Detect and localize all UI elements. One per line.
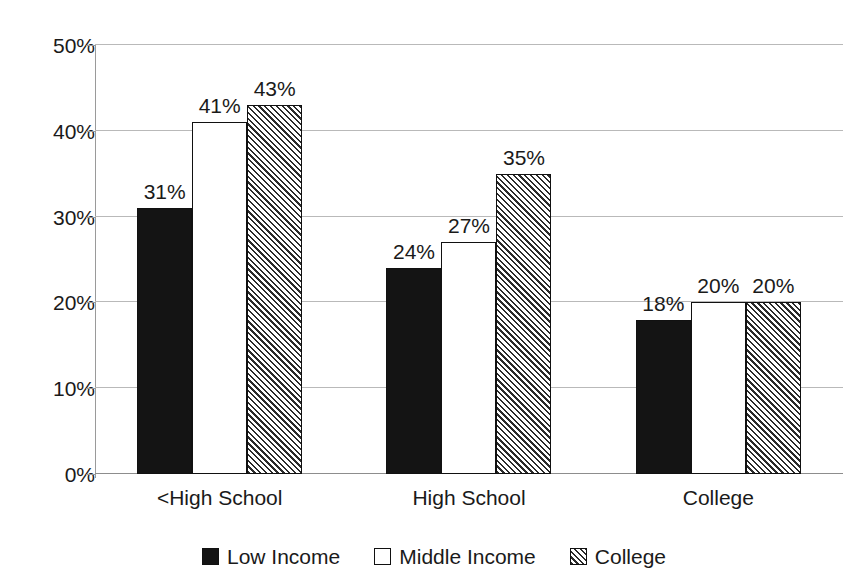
chart-legend: Low IncomeMiddle IncomeCollege [0, 546, 868, 567]
bar-group-1: 24%27%35% [344, 45, 593, 474]
y-tick-label-0%: 0% [17, 464, 95, 485]
y-axis: 0%10%20%30%40%50% [0, 45, 95, 474]
x-axis-label-2: College [683, 486, 754, 510]
bar-2-2 [746, 302, 801, 474]
bar-value-label-1-1: 27% [448, 215, 490, 236]
legend-label-2: College [595, 546, 666, 567]
bar-value-label-0-1: 41% [199, 95, 241, 116]
bar-1-1 [441, 242, 496, 474]
bar-value-label-2-1: 20% [697, 275, 739, 296]
y-tick-mark-40% [86, 131, 95, 132]
bar-value-label-2-2: 20% [752, 275, 794, 296]
bar-value-label-1-0: 24% [393, 241, 435, 262]
legend-swatch-low-income [202, 548, 219, 565]
y-tick-mark-10% [86, 388, 95, 389]
y-tick-mark-50% [86, 45, 95, 46]
x-axis-label-0: <High School [157, 486, 283, 510]
y-tick-label-40%: 40% [17, 120, 95, 141]
y-tick-mark-0% [86, 474, 95, 475]
bar-chart: 0%10%20%30%40%50% 31%41%43%24%27%35%18%2… [0, 0, 868, 584]
legend-item-1[interactable]: Middle Income [374, 546, 536, 567]
y-tick-mark-20% [86, 302, 95, 303]
plot-area: 31%41%43%24%27%35%18%20%20% [95, 45, 843, 474]
bar-0-0 [137, 208, 192, 474]
y-tick-label-50%: 50% [17, 35, 95, 56]
y-tick-label-30%: 30% [17, 206, 95, 227]
bar-value-label-1-2: 35% [503, 147, 545, 168]
bar-2-1 [691, 302, 746, 474]
bar-value-label-2-0: 18% [642, 293, 684, 314]
legend-label-1: Middle Income [399, 546, 536, 567]
legend-item-2[interactable]: College [570, 546, 666, 567]
bar-1-0 [386, 268, 441, 474]
legend-item-0[interactable]: Low Income [202, 546, 340, 567]
bar-group-2: 18%20%20% [594, 45, 843, 474]
legend-label-0: Low Income [227, 546, 340, 567]
legend-swatch-college [570, 548, 587, 565]
y-tick-label-10%: 10% [17, 378, 95, 399]
x-axis-label-1: High School [412, 486, 525, 510]
bar-value-label-0-2: 43% [254, 78, 296, 99]
bar-1-2 [496, 174, 551, 474]
bar-2-0 [636, 320, 691, 474]
y-tick-mark-30% [86, 217, 95, 218]
bar-value-label-0-0: 31% [144, 181, 186, 202]
y-tick-label-20%: 20% [17, 292, 95, 313]
x-axis-labels: <High SchoolHigh SchoolCollege [95, 486, 843, 516]
bar-group-0: 31%41%43% [95, 45, 344, 474]
legend-swatch-middle-income [374, 548, 391, 565]
bar-0-2 [247, 105, 302, 474]
bar-0-1 [192, 122, 247, 474]
